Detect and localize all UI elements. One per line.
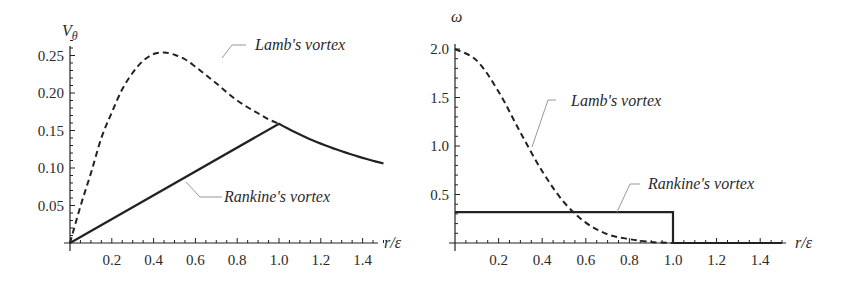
x-tick-label: 0.8 <box>228 252 247 268</box>
x-tick-label: 1.4 <box>353 252 372 268</box>
figure: 0.20.40.60.81.01.21.40.050.100.150.200.2… <box>0 0 847 288</box>
rankine-annotation-right: Rankine's vortex <box>647 175 754 192</box>
y-tick-label: 1.5 <box>430 90 449 106</box>
rankine-velocity-curve <box>70 124 384 243</box>
x-tick-label: 0.6 <box>186 252 205 268</box>
x-tick-label: 0.2 <box>489 252 508 268</box>
right-x-axis-label: r/ε <box>795 234 813 251</box>
left-ticks <box>70 41 384 244</box>
left-x-axis-label: r/ε <box>384 234 402 251</box>
x-tick-label: 1.0 <box>664 252 683 268</box>
y-tick-label: 0.10 <box>38 160 64 176</box>
lamb-annotation-right: Lamb's vortex <box>570 92 661 109</box>
x-tick-label: 1.2 <box>707 252 726 268</box>
lamb-vorticity-curve <box>455 49 673 243</box>
lamb-annotation: Lamb's vortex <box>254 36 345 53</box>
y-tick-label: 0.5 <box>430 187 449 203</box>
x-tick-label: 0.6 <box>576 252 595 268</box>
right-vorticity-plot: 0.20.40.60.81.01.21.40.51.01.52.0 ω r/ε … <box>430 8 812 268</box>
y-tick-label: 1.0 <box>430 138 449 154</box>
x-tick-label: 0.4 <box>533 252 552 268</box>
y-tick-label: 0.05 <box>38 198 64 214</box>
left-tick-labels: 0.20.40.60.81.01.21.40.050.100.150.200.2… <box>38 48 373 269</box>
x-tick-label: 0.2 <box>102 252 121 268</box>
y-tick-label: 0.15 <box>38 123 64 139</box>
right-tick-labels: 0.20.40.60.81.01.21.40.51.01.52.0 <box>430 41 770 268</box>
left-velocity-plot: 0.20.40.60.81.01.21.40.050.100.150.200.2… <box>38 22 402 268</box>
rankine-leader-line <box>186 182 222 197</box>
right-ticks <box>455 49 782 243</box>
y-tick-label: 2.0 <box>430 41 449 57</box>
x-tick-label: 1.2 <box>311 252 330 268</box>
x-tick-label: 1.0 <box>270 252 289 268</box>
right-axes <box>449 44 786 251</box>
rankine-leader-line-right <box>617 184 640 212</box>
lamb-leader-line-right <box>532 100 556 147</box>
x-tick-label: 0.4 <box>144 252 163 268</box>
left-y-axis-label: Vθ <box>62 22 78 43</box>
rankine-vorticity-curve <box>455 212 782 243</box>
lamb-leader-line <box>222 45 246 58</box>
rankine-annotation: Rankine's vortex <box>223 188 330 205</box>
y-tick-label: 0.25 <box>38 48 64 64</box>
y-tick-label: 0.20 <box>38 85 64 101</box>
right-y-axis-label: ω <box>451 8 462 25</box>
x-tick-label: 0.8 <box>620 252 639 268</box>
x-tick-label: 1.4 <box>751 252 770 268</box>
lamb-velocity-curve <box>70 52 279 243</box>
